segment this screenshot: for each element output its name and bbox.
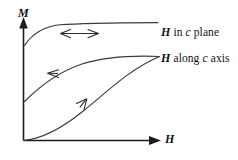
series-0-tail: plane bbox=[194, 26, 219, 38]
series-label-h-in-c-plane: H in c plane bbox=[161, 26, 219, 39]
series-label-h-along-c-axis: H along c axis bbox=[161, 52, 230, 65]
series-1-mid: along bbox=[173, 52, 199, 64]
curve-path-h-in-c-plane bbox=[25, 23, 159, 46]
h-axis-symbol: H bbox=[165, 132, 174, 146]
figure-canvas bbox=[0, 0, 238, 160]
m-axis-symbol: M bbox=[18, 6, 29, 20]
h-axis-arrowhead bbox=[149, 136, 161, 145]
annotation-arrows-top bbox=[61, 29, 99, 37]
curve-path-initial-branch bbox=[25, 57, 160, 141]
axes-group bbox=[19, 17, 161, 145]
curve-h-along-c-axis bbox=[25, 56, 160, 101]
m-axis-label: M bbox=[18, 7, 29, 20]
annotation-arrow-middle bbox=[48, 70, 59, 78]
h-axis-label: H bbox=[165, 133, 174, 146]
curve-path-h-along-c-axis bbox=[25, 56, 160, 101]
annotation-arrow-lower bbox=[77, 99, 87, 110]
curve-initial-branch bbox=[25, 57, 160, 141]
curve-h-in-c-plane bbox=[25, 23, 159, 46]
figure-container: M H H in c plane H along c axis bbox=[0, 0, 238, 160]
series-1-tail: axis bbox=[211, 52, 230, 64]
series-0-mid: in bbox=[173, 26, 182, 38]
